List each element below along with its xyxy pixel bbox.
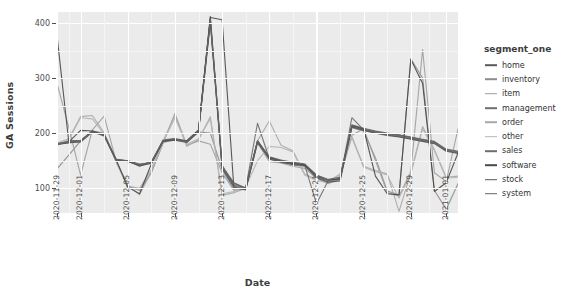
gridline-vertical-minor	[340, 12, 341, 213]
gridline-vertical-minor	[293, 12, 294, 213]
y-tick-label: 100	[20, 184, 50, 193]
y-tick-mark	[52, 78, 56, 79]
legend-item[interactable]: other	[484, 129, 568, 143]
legend-label: item	[502, 89, 520, 98]
x-tick-label: 2020-12-21	[311, 175, 320, 220]
y-tick-mark	[52, 133, 56, 134]
y-tick-label: 300	[20, 74, 50, 83]
legend-key-icon	[484, 60, 498, 71]
gridline-horizontal	[57, 133, 458, 134]
gridline-vertical-minor	[104, 12, 105, 213]
legend-label: sales	[502, 146, 522, 155]
legend-item[interactable]: stock	[484, 172, 568, 186]
plot-lines	[57, 12, 458, 213]
legend-label: software	[502, 161, 536, 170]
gridline-vertical-minor	[429, 12, 430, 213]
legend-key-icon	[484, 188, 498, 199]
legend-key-icon	[484, 131, 498, 142]
series-line	[57, 49, 458, 195]
legend-item[interactable]: system	[484, 187, 568, 201]
gridline-vertical-minor	[69, 12, 70, 213]
legend-key-icon	[484, 174, 498, 185]
legend-item[interactable]: software	[484, 158, 568, 172]
y-tick-label: 400	[20, 19, 50, 28]
x-tick-label: 2020-12-17	[264, 175, 273, 220]
y-tick-mark	[52, 23, 56, 24]
x-axis-title: Date	[57, 277, 458, 288]
legend-item[interactable]: inventory	[484, 72, 568, 86]
gridline-vertical-minor	[387, 12, 388, 213]
gridline-vertical-minor	[199, 12, 200, 213]
y-axis-ticks: 100200300400	[20, 0, 50, 296]
legend-label: inventory	[502, 75, 540, 84]
x-tick-label: 2020-12-29	[405, 175, 414, 220]
legend-item[interactable]: home	[484, 58, 568, 72]
legend-item[interactable]: order	[484, 115, 568, 129]
x-tick-label: 2021-01-01	[441, 175, 450, 220]
legend-label: stock	[502, 175, 523, 184]
x-tick-label: 2020-12-13	[217, 175, 226, 220]
legend-item[interactable]: item	[484, 87, 568, 101]
chart-container: GA Sessions 100200300400 2020-11-292020-…	[0, 0, 568, 296]
legend-items: homeinventoryitemmanagementorderothersal…	[484, 58, 568, 201]
series-line	[57, 118, 458, 198]
x-tick-label: 2020-12-01	[75, 175, 84, 220]
gridline-horizontal	[57, 78, 458, 79]
x-tick-label: 2020-12-25	[358, 175, 367, 220]
plot-panel	[57, 12, 458, 213]
gridline-horizontal-minor	[57, 106, 458, 107]
legend-title: segment_one	[484, 44, 568, 54]
y-tick-label: 200	[20, 129, 50, 138]
gridline-vertical-minor	[151, 12, 152, 213]
gridline-horizontal	[57, 23, 458, 24]
gridline-horizontal-minor	[57, 161, 458, 162]
legend-key-icon	[484, 160, 498, 171]
gridline-horizontal-minor	[57, 51, 458, 52]
legend-label: system	[502, 189, 531, 198]
y-axis-title: GA Sessions	[4, 60, 20, 170]
legend-label: other	[502, 132, 523, 141]
x-tick-label: 2020-12-05	[122, 175, 131, 220]
legend-label: order	[502, 118, 523, 127]
gridline-vertical-minor	[246, 12, 247, 213]
legend-key-icon	[484, 74, 498, 85]
legend-key-icon	[484, 145, 498, 156]
legend-key-icon	[484, 88, 498, 99]
legend-label: home	[502, 61, 525, 70]
legend: segment_one homeinventoryitemmanagemento…	[484, 44, 568, 201]
legend-key-icon	[484, 103, 498, 114]
legend-item[interactable]: management	[484, 101, 568, 115]
legend-key-icon	[484, 117, 498, 128]
x-tick-label: 2020-12-09	[170, 175, 179, 220]
legend-item[interactable]: sales	[484, 144, 568, 158]
x-tick-label: 2020-11-29	[52, 175, 61, 220]
series-line	[57, 21, 458, 204]
gridline-horizontal	[57, 188, 458, 189]
legend-label: management	[502, 104, 556, 113]
